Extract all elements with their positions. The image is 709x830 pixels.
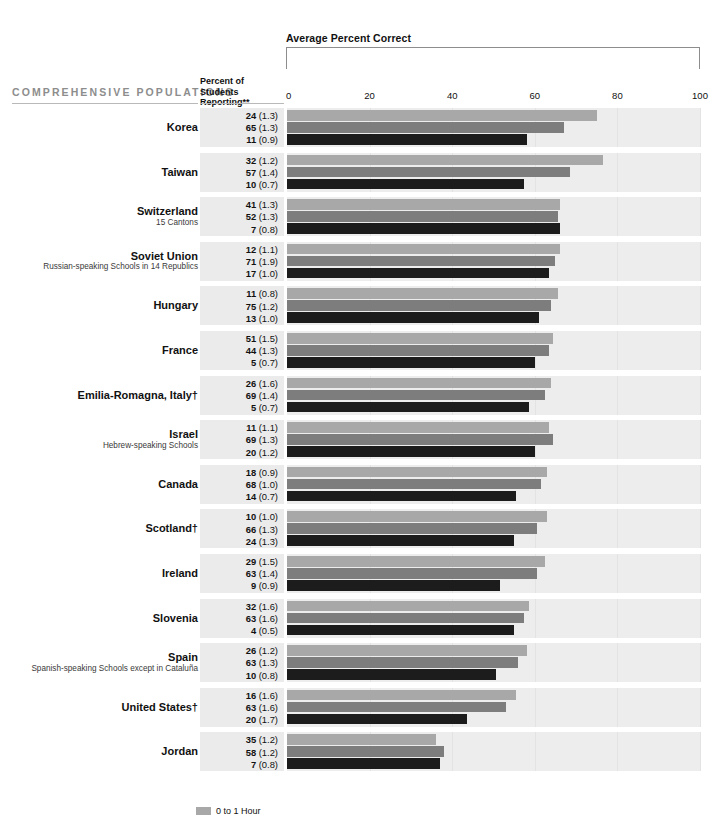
percent-reporting-standard-error: (1.6) xyxy=(256,613,278,624)
country-name: Ireland xyxy=(12,567,198,580)
country-label-block: Emilia-Romagna, Italy† xyxy=(12,389,198,402)
percent-reporting-line: 32 (1.6) xyxy=(200,601,282,613)
percent-reporting-value: 69 xyxy=(246,390,256,401)
percent-reporting-standard-error: (1.6) xyxy=(256,601,278,612)
bar-3 xyxy=(287,223,560,234)
bar-band xyxy=(287,420,700,459)
bar-group xyxy=(287,242,700,279)
percent-reporting-value: 65 xyxy=(246,122,256,133)
gridline-100 xyxy=(700,643,701,682)
percent-header-rule xyxy=(200,103,284,104)
percent-reporting-line: 65 (1.3) xyxy=(200,122,282,134)
percent-reporting-line: 20 (1.7) xyxy=(200,714,282,726)
chart-row: France51 (1.5)44 (1.3)5 (0.7) xyxy=(0,331,709,370)
percent-reporting-value: 10 xyxy=(246,179,256,190)
bar-1 xyxy=(287,155,603,166)
percent-reporting-line: 66 (1.3) xyxy=(200,524,282,536)
percent-reporting-value: 63 xyxy=(246,657,256,668)
percent-header-line-2: Students Reporting** xyxy=(200,87,284,108)
percent-reporting-line: 16 (1.6) xyxy=(200,690,282,702)
percent-reporting-standard-error: (1.0) xyxy=(256,479,278,490)
percent-reporting-standard-error: (0.7) xyxy=(256,357,278,368)
percent-reporting-block: 26 (1.6)69 (1.4)5 (0.7) xyxy=(200,376,284,415)
percent-reporting-line: 32 (1.2) xyxy=(200,155,282,167)
percent-reporting-value: 24 xyxy=(246,536,256,547)
chart-row: SpainSpanish-speaking Schools except in … xyxy=(0,643,709,682)
percent-reporting-standard-error: (1.3) xyxy=(256,211,278,222)
country-label-block: Scotland† xyxy=(12,522,198,535)
percent-reporting-line: 18 (0.9) xyxy=(200,467,282,479)
bar-1 xyxy=(287,199,560,210)
percent-reporting-value: 75 xyxy=(246,301,256,312)
bar-group xyxy=(287,197,700,234)
country-name: Scotland† xyxy=(12,522,198,535)
bar-3 xyxy=(287,625,514,636)
bar-band xyxy=(287,331,700,370)
percent-reporting-line: 5 (0.7) xyxy=(200,402,282,414)
percent-reporting-standard-error: (0.9) xyxy=(256,467,278,478)
percent-reporting-standard-error: (1.1) xyxy=(256,244,278,255)
percent-reporting-value: 69 xyxy=(246,434,256,445)
percent-reporting-standard-error: (0.8) xyxy=(256,288,278,299)
percent-reporting-block: 18 (0.9)68 (1.0)14 (0.7) xyxy=(200,465,284,504)
bar-1 xyxy=(287,601,529,612)
bar-3 xyxy=(287,580,500,591)
percent-reporting-line: 29 (1.5) xyxy=(200,556,282,568)
chart-row: Korea24 (1.3)65 (1.3)11 (0.9) xyxy=(0,108,709,147)
bar-3 xyxy=(287,134,527,145)
percent-reporting-value: 57 xyxy=(246,167,256,178)
bar-1 xyxy=(287,645,527,656)
percent-reporting-value: 12 xyxy=(246,244,256,255)
gridline-100 xyxy=(700,153,701,192)
chart-row: Canada18 (0.9)68 (1.0)14 (0.7) xyxy=(0,465,709,504)
percent-reporting-standard-error: (0.7) xyxy=(256,491,278,502)
bar-2 xyxy=(287,613,524,624)
percent-reporting-line: 7 (0.8) xyxy=(200,224,282,236)
percent-reporting-standard-error: (1.6) xyxy=(256,702,278,713)
percent-reporting-block: 35 (1.2)58 (1.2)7 (0.8) xyxy=(200,732,284,771)
percent-reporting-line: 20 (1.2) xyxy=(200,447,282,459)
bar-3 xyxy=(287,312,539,323)
percent-reporting-standard-error: (0.9) xyxy=(256,580,278,591)
percent-reporting-value: 68 xyxy=(246,479,256,490)
percent-reporting-value: 63 xyxy=(246,702,256,713)
percent-reporting-line: 17 (1.0) xyxy=(200,268,282,280)
percent-reporting-block: 16 (1.6)63 (1.6)20 (1.7) xyxy=(200,688,284,727)
percent-reporting-block: 10 (1.0)66 (1.3)24 (1.3) xyxy=(200,509,284,548)
percent-reporting-standard-error: (1.5) xyxy=(256,333,278,344)
axis-title: Average Percent Correct xyxy=(286,32,411,44)
country-name: Emilia-Romagna, Italy† xyxy=(12,389,198,402)
percent-reporting-line: 10 (1.0) xyxy=(200,511,282,523)
country-label-block: Ireland xyxy=(12,567,198,580)
percent-reporting-line: 68 (1.0) xyxy=(200,479,282,491)
legend-swatch-0-to-1-hour xyxy=(196,807,211,815)
percent-reporting-value: 16 xyxy=(246,690,256,701)
chart-row: Emilia-Romagna, Italy†26 (1.6)69 (1.4)5 … xyxy=(0,376,709,415)
percent-reporting-line: 11 (0.9) xyxy=(200,134,282,146)
gridline-100 xyxy=(700,286,701,325)
percent-reporting-line: 52 (1.3) xyxy=(200,211,282,223)
percent-reporting-line: 4 (0.5) xyxy=(200,625,282,637)
percent-reporting-value: 26 xyxy=(246,645,256,656)
country-label-block: SpainSpanish-speaking Schools except in … xyxy=(12,651,198,674)
percent-reporting-standard-error: (1.3) xyxy=(256,657,278,668)
percent-reporting-line: 63 (1.6) xyxy=(200,613,282,625)
percent-reporting-value: 32 xyxy=(246,601,256,612)
percent-reporting-standard-error: (1.5) xyxy=(256,556,278,567)
gridline-100 xyxy=(700,376,701,415)
bar-2 xyxy=(287,390,545,401)
percent-reporting-value: 11 xyxy=(246,288,256,299)
bar-band xyxy=(287,108,700,147)
chart-row: Taiwan32 (1.2)57 (1.4)10 (0.7) xyxy=(0,153,709,192)
percent-reporting-standard-error: (1.3) xyxy=(256,536,278,547)
country-label-block: Jordan xyxy=(12,745,198,758)
percent-reporting-line: 11 (1.1) xyxy=(200,422,282,434)
percent-reporting-standard-error: (0.9) xyxy=(256,134,278,145)
bar-3 xyxy=(287,491,516,502)
percent-reporting-line: 63 (1.3) xyxy=(200,657,282,669)
percent-header-line-1: Percent of xyxy=(200,76,284,87)
percent-reporting-block: 41 (1.3)52 (1.3)7 (0.8) xyxy=(200,197,284,236)
percent-reporting-standard-error: (1.4) xyxy=(256,568,278,579)
bar-3 xyxy=(287,714,467,725)
percent-reporting-standard-error: (1.0) xyxy=(256,313,278,324)
